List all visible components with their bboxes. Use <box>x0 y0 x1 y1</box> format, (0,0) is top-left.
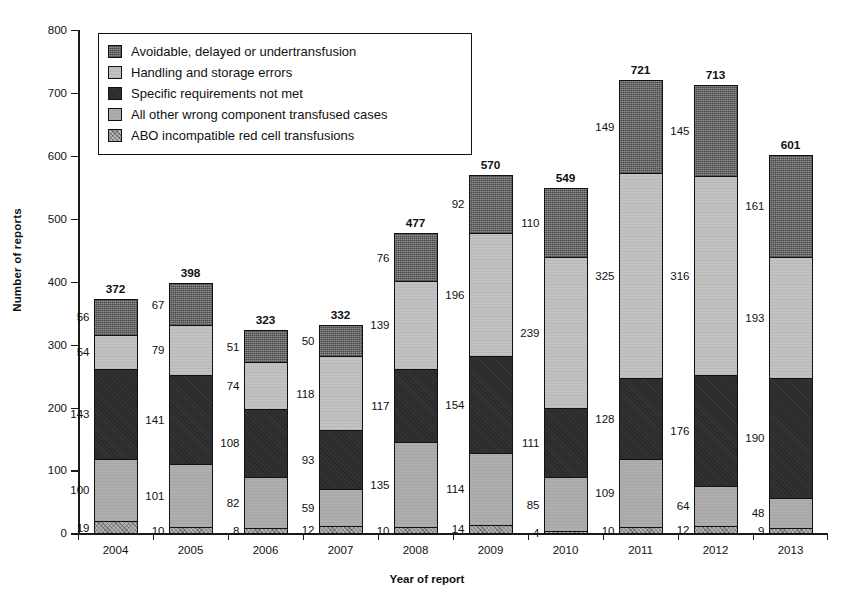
bar-group[interactable]: 72114932512810910 <box>619 80 663 534</box>
bar-segment-handling[interactable]: 79 <box>170 326 212 376</box>
stacked-bar[interactable]: 372565414310019 <box>94 299 138 533</box>
bar-segment-avoidable[interactable]: 76 <box>395 234 437 282</box>
bar-segment-value-label: 59 <box>302 502 315 514</box>
bar-group[interactable]: 4777613911713510 <box>394 233 438 533</box>
bar-segment-abo[interactable]: 10 <box>395 528 437 534</box>
bar-segment-abo[interactable]: 19 <box>95 522 137 534</box>
legend-item[interactable]: ABO incompatible red cell transfusions <box>108 125 462 146</box>
bar-segment-handling[interactable]: 196 <box>470 234 512 357</box>
bar-segment-value-label: 19 <box>77 522 90 534</box>
bar-segment-value-label: 92 <box>452 198 465 210</box>
bar-group[interactable]: 372565414310019 <box>94 299 138 533</box>
chart-legend: Avoidable, delayed or undertransfusionHa… <box>98 33 472 155</box>
stacked-bar[interactable]: 33250118935912 <box>319 325 363 534</box>
bar-segment-allother[interactable]: 100 <box>95 460 137 523</box>
bar-group[interactable]: 7131453161766412 <box>694 85 738 534</box>
bar-segment-abo[interactable]: 9 <box>770 529 812 535</box>
y-tick-label: 600 <box>48 150 67 162</box>
bar-segment-handling[interactable]: 139 <box>395 282 437 369</box>
bar-segment-specific[interactable]: 176 <box>695 376 737 487</box>
bar-segment-allother[interactable]: 109 <box>620 460 662 529</box>
bar-segment-specific[interactable]: 154 <box>470 357 512 454</box>
bar-segment-value-label: 114 <box>446 483 464 495</box>
bar-segment-abo[interactable]: 10 <box>170 528 212 534</box>
bar-segment-handling[interactable]: 193 <box>770 258 812 379</box>
bar-segment-specific[interactable]: 108 <box>245 410 287 478</box>
bar-segment-allother[interactable]: 85 <box>545 478 587 531</box>
bar-segment-avoidable[interactable]: 110 <box>545 189 587 258</box>
bar-segment-allother[interactable]: 82 <box>245 478 287 530</box>
stacked-bar[interactable]: 4777613911713510 <box>394 233 438 533</box>
bar-group[interactable]: 33250118935912 <box>319 325 363 534</box>
bar-total-label: 372 <box>106 282 126 296</box>
bar-segment-handling[interactable]: 239 <box>545 258 587 408</box>
bar-segment-avoidable[interactable]: 56 <box>95 300 137 335</box>
bar-segment-specific[interactable]: 93 <box>320 431 362 490</box>
bar-segment-value-label: 135 <box>370 479 389 491</box>
stacked-bar[interactable]: 5709219615411414 <box>469 175 513 534</box>
bar-segment-specific[interactable]: 128 <box>620 379 662 460</box>
x-tick-label-2004: 2004 <box>103 544 129 556</box>
x-axis-title: Year of report <box>0 573 854 585</box>
stacked-bar[interactable]: 601161193190489 <box>769 155 813 533</box>
stacked-bar[interactable]: 7131453161766412 <box>694 85 738 534</box>
bar-segment-specific[interactable]: 143 <box>95 370 137 460</box>
x-tick-mark <box>827 533 828 540</box>
bar-segment-handling[interactable]: 316 <box>695 177 737 376</box>
y-tick-label: 0 <box>61 527 67 539</box>
bar-group[interactable]: 601161193190489 <box>769 155 813 533</box>
bar-segment-avoidable[interactable]: 92 <box>470 176 512 234</box>
bar-segment-specific[interactable]: 141 <box>170 376 212 465</box>
bar-segment-value-label: 141 <box>145 414 164 426</box>
bar-segment-value-label: 67 <box>152 299 165 311</box>
bar-segment-value-label: 128 <box>595 413 614 425</box>
bar-segment-allother[interactable]: 101 <box>170 465 212 529</box>
bar-segment-avoidable[interactable]: 50 <box>320 326 362 357</box>
stacked-bar[interactable]: 3235174108828 <box>244 330 288 533</box>
bar-group[interactable]: 398677914110110 <box>169 283 213 533</box>
bar-segment-specific[interactable]: 117 <box>395 370 437 444</box>
bar-segment-avoidable[interactable]: 67 <box>170 284 212 326</box>
bar-segment-handling[interactable]: 325 <box>620 174 662 379</box>
bar-total-label: 713 <box>706 68 726 82</box>
legend-item-label: ABO incompatible red cell transfusions <box>131 129 354 142</box>
legend-swatch-icon <box>108 87 122 100</box>
stacked-bar[interactable]: 72114932512810910 <box>619 80 663 534</box>
bar-segment-allother[interactable]: 64 <box>695 487 737 527</box>
bar-segment-avoidable[interactable]: 51 <box>245 331 287 363</box>
bar-segment-avoidable[interactable]: 145 <box>695 86 737 177</box>
legend-item[interactable]: Avoidable, delayed or undertransfusion <box>108 41 462 62</box>
y-tick-mark <box>71 156 78 157</box>
bar-group[interactable]: 5709219615411414 <box>469 175 513 534</box>
y-tick-mark <box>71 93 78 94</box>
bar-segment-allother[interactable]: 135 <box>395 443 437 528</box>
legend-item[interactable]: Handling and storage errors <box>108 62 462 83</box>
bar-segment-abo[interactable]: 4 <box>545 532 587 535</box>
bar-group[interactable]: 3235174108828 <box>244 330 288 533</box>
bar-segment-avoidable[interactable]: 161 <box>770 156 812 257</box>
bar-segment-specific[interactable]: 190 <box>770 379 812 499</box>
bar-group[interactable]: 549110239111854 <box>544 188 588 533</box>
bar-segment-allother[interactable]: 59 <box>320 490 362 527</box>
bar-segment-abo[interactable]: 14 <box>470 526 512 535</box>
bar-segment-handling[interactable]: 74 <box>245 363 287 410</box>
bar-segment-handling[interactable]: 118 <box>320 357 362 431</box>
bar-segment-abo[interactable]: 8 <box>245 529 287 534</box>
bar-segment-allother[interactable]: 48 <box>770 499 812 529</box>
stacked-bar[interactable]: 398677914110110 <box>169 283 213 533</box>
legend-item[interactable]: Specific requirements not met <box>108 83 462 104</box>
bar-segment-handling[interactable]: 54 <box>95 336 137 370</box>
x-tick-label-2013: 2013 <box>778 544 804 556</box>
stacked-bar[interactable]: 549110239111854 <box>544 188 588 533</box>
x-axis-title-text: Year of report <box>390 573 465 585</box>
bar-segment-avoidable[interactable]: 149 <box>620 81 662 175</box>
legend-item-label: Avoidable, delayed or undertransfusion <box>131 45 356 58</box>
legend-item[interactable]: All other wrong component transfused cas… <box>108 104 462 125</box>
bar-segment-allother[interactable]: 114 <box>470 454 512 526</box>
bar-segment-abo[interactable]: 12 <box>695 527 737 535</box>
bar-segment-value-label: 64 <box>677 500 690 512</box>
bar-segment-specific[interactable]: 111 <box>545 409 587 479</box>
bar-total-label: 332 <box>331 308 351 322</box>
bar-segment-abo[interactable]: 10 <box>620 528 662 534</box>
bar-segment-abo[interactable]: 12 <box>320 527 362 535</box>
